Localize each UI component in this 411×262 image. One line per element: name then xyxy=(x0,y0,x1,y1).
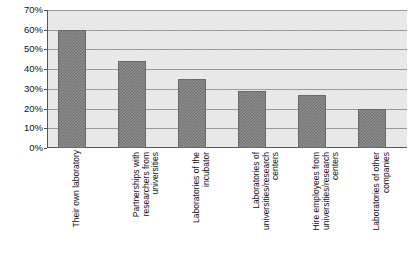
bar-chart: 70% 60% 50% 40% 30% 20% 10% 0% Their own… xyxy=(0,0,411,262)
x-label-laboratories-of-universities-research-centers: Laboratories of universities/research ce… xyxy=(252,152,288,260)
x-label-their-own-laboratory: Their own laboratory xyxy=(72,150,88,260)
y-tickmark-50 xyxy=(44,49,47,50)
y-tick-label-70: 70% xyxy=(0,5,43,14)
y-tickmark-10 xyxy=(44,128,47,129)
y-tickmark-20 xyxy=(44,109,47,110)
y-tickmark-60 xyxy=(44,30,47,31)
x-label-partnerships-with-researchers-from-universities: Partnerships with researchers from unive… xyxy=(132,152,168,260)
x-label-laboratories-of-the-incubator: Laboratories of the incubator xyxy=(192,152,218,260)
y-tickmark-70 xyxy=(44,10,47,11)
y-tick-label-60: 60% xyxy=(0,25,43,34)
x-axis-labels: Their own laboratory Partnerships with r… xyxy=(47,150,407,262)
y-tickmark-30 xyxy=(44,89,47,90)
y-axis: 70% 60% 50% 40% 30% 20% 10% 0% xyxy=(0,10,411,148)
y-tick-label-30: 30% xyxy=(0,84,43,93)
y-tickmark-0 xyxy=(44,148,47,149)
y-tick-label-10: 10% xyxy=(0,123,43,132)
y-tickmark-40 xyxy=(44,69,47,70)
x-label-hire-employees-from-universities-research-centers: Hire employees from universities/researc… xyxy=(312,152,348,260)
y-tick-label-20: 20% xyxy=(0,104,43,113)
y-tick-label-50: 50% xyxy=(0,44,43,53)
y-tick-label-40: 40% xyxy=(0,64,43,73)
y-tick-label-0: 0% xyxy=(0,143,43,152)
x-label-laboratories-of-other-companies: Laboratories of other companies xyxy=(372,152,398,260)
